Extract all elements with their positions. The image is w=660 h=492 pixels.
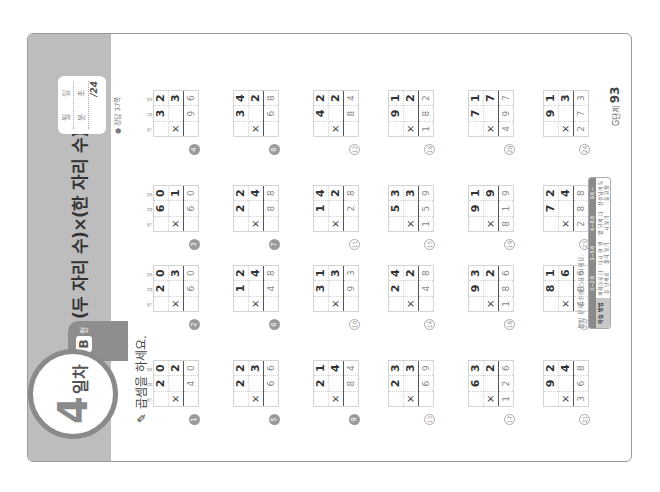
answer-cell[interactable]: 9 bbox=[499, 186, 513, 201]
answer-cell[interactable] bbox=[184, 122, 198, 136]
digit-cell: 2 bbox=[329, 91, 343, 106]
answer-cell[interactable] bbox=[184, 392, 198, 406]
answer-row[interactable]: 819 bbox=[498, 186, 513, 231]
times-sign: × bbox=[329, 217, 343, 231]
answer-cell[interactable] bbox=[419, 392, 433, 406]
answer-cell[interactable]: 8 bbox=[344, 376, 358, 391]
answer-cell[interactable]: 8 bbox=[344, 106, 358, 121]
answer-cell[interactable]: 2 bbox=[574, 122, 588, 136]
answer-row[interactable]: 40 bbox=[183, 361, 198, 406]
multiplier-row: ×4 bbox=[248, 266, 263, 311]
answer-cell[interactable]: 6 bbox=[184, 281, 198, 296]
answer-cell[interactable]: 9 bbox=[499, 106, 513, 121]
answer-cell[interactable] bbox=[184, 297, 198, 311]
answer-cell[interactable]: 8 bbox=[574, 361, 588, 376]
answer-cell[interactable]: 1 bbox=[499, 297, 513, 311]
legend-col: 6~8개앞 단계 다시 보기 bbox=[589, 208, 610, 238]
answer-row[interactable]: 159 bbox=[418, 186, 433, 231]
digit-cell: 1 bbox=[544, 91, 558, 106]
digit-cell: 2 bbox=[234, 361, 248, 376]
answer-cell[interactable]: 6 bbox=[264, 376, 278, 391]
answer-cell[interactable]: 8 bbox=[264, 201, 278, 216]
answer-cell[interactable]: 1 bbox=[419, 217, 433, 231]
answer-cell[interactable]: 8 bbox=[419, 106, 433, 121]
answer-cell[interactable] bbox=[344, 297, 358, 311]
answer-cell[interactable]: 4 bbox=[264, 281, 278, 296]
answer-cell[interactable]: 7 bbox=[499, 91, 513, 106]
answer-row[interactable]: 368 bbox=[573, 361, 588, 406]
answer-cell[interactable]: 2 bbox=[419, 91, 433, 106]
answer-cell[interactable]: 8 bbox=[264, 266, 278, 281]
answer-cell[interactable]: 6 bbox=[499, 266, 513, 281]
answer-row[interactable]: 273 bbox=[573, 91, 588, 136]
answer-row[interactable]: 68 bbox=[263, 91, 278, 136]
answer-cell[interactable] bbox=[344, 217, 358, 231]
answer-cell[interactable] bbox=[419, 297, 433, 311]
answer-row[interactable]: 93 bbox=[343, 266, 358, 311]
answer-cell[interactable]: 0 bbox=[184, 266, 198, 281]
answer-row[interactable]: 88 bbox=[263, 186, 278, 231]
answer-cell[interactable]: 4 bbox=[499, 122, 513, 136]
answer-cell[interactable] bbox=[344, 392, 358, 406]
answer-row[interactable]: 186 bbox=[498, 266, 513, 311]
answer-cell[interactable]: 8 bbox=[499, 281, 513, 296]
answer-cell[interactable] bbox=[184, 217, 198, 231]
answer-cell[interactable]: 6 bbox=[574, 376, 588, 391]
answer-cell[interactable]: 6 bbox=[499, 361, 513, 376]
answer-cell[interactable] bbox=[264, 392, 278, 406]
answer-cell[interactable]: 6 bbox=[419, 376, 433, 391]
answer-cell[interactable]: 7 bbox=[574, 106, 588, 121]
answer-row[interactable]: 497 bbox=[498, 91, 513, 136]
answer-cell[interactable]: 9 bbox=[419, 186, 433, 201]
digit-cell: 2 bbox=[234, 266, 248, 281]
answer-cell[interactable]: 2 bbox=[499, 376, 513, 391]
answer-row[interactable]: 96 bbox=[183, 91, 198, 136]
answer-cell[interactable]: 3 bbox=[574, 392, 588, 406]
answer-cell[interactable]: 4 bbox=[419, 281, 433, 296]
answer-cell[interactable] bbox=[344, 122, 358, 136]
answer-cell[interactable]: 0 bbox=[184, 186, 198, 201]
answer-cell[interactable]: 6 bbox=[264, 106, 278, 121]
answer-cell[interactable]: 8 bbox=[499, 217, 513, 231]
answer-row[interactable]: 60 bbox=[183, 186, 198, 231]
answer-cell[interactable]: 3 bbox=[344, 266, 358, 281]
digit-cell bbox=[544, 122, 558, 136]
answer-row[interactable]: 60 bbox=[183, 266, 198, 311]
answer-cell[interactable] bbox=[264, 297, 278, 311]
answer-cell[interactable]: 5 bbox=[419, 201, 433, 216]
answer-cell[interactable]: 9 bbox=[419, 361, 433, 376]
answer-cell[interactable]: 2 bbox=[344, 201, 358, 216]
answer-row[interactable]: 182 bbox=[418, 91, 433, 136]
answer-row[interactable]: 69 bbox=[418, 361, 433, 406]
answer-cell[interactable]: 8 bbox=[344, 186, 358, 201]
answer-cell[interactable] bbox=[264, 122, 278, 136]
answer-cell[interactable]: 6 bbox=[184, 201, 198, 216]
answer-cell[interactable]: 1 bbox=[419, 122, 433, 136]
answer-cell[interactable]: 1 bbox=[499, 201, 513, 216]
answer-cell[interactable]: 4 bbox=[344, 91, 358, 106]
answer-cell[interactable]: 1 bbox=[499, 392, 513, 406]
answer-row[interactable]: 28 bbox=[343, 186, 358, 231]
answer-row[interactable]: 66 bbox=[263, 361, 278, 406]
answer-cell[interactable] bbox=[264, 217, 278, 231]
multiplicand-row: 91 bbox=[389, 91, 403, 136]
answer-cell[interactable]: 6 bbox=[264, 361, 278, 376]
answer-cell[interactable]: 0 bbox=[184, 361, 198, 376]
answer-row[interactable]: 84 bbox=[343, 91, 358, 136]
answer-cell[interactable]: 8 bbox=[419, 266, 433, 281]
answer-cell[interactable]: 9 bbox=[184, 106, 198, 121]
answer-row[interactable]: 126 bbox=[498, 361, 513, 406]
digit-cell bbox=[559, 106, 573, 121]
answer-cell[interactable]: 9 bbox=[344, 281, 358, 296]
answer-row[interactable]: 84 bbox=[343, 361, 358, 406]
answer-cell[interactable]: 8 bbox=[264, 186, 278, 201]
multiplier-row: ×6 bbox=[558, 266, 573, 311]
answer-row[interactable]: 48 bbox=[263, 266, 278, 311]
answer-cell[interactable]: 4 bbox=[184, 376, 198, 391]
answer-cell[interactable]: 8 bbox=[264, 91, 278, 106]
multiplier-row: ×4 bbox=[558, 186, 573, 231]
answer-row[interactable]: 48 bbox=[418, 266, 433, 311]
answer-cell[interactable]: 6 bbox=[184, 91, 198, 106]
answer-cell[interactable]: 3 bbox=[574, 91, 588, 106]
answer-cell[interactable]: 4 bbox=[344, 361, 358, 376]
